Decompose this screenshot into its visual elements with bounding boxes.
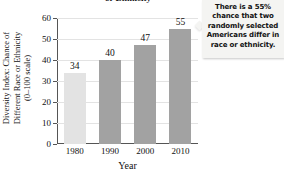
- plot-area: 0102030405060 34404755: [57, 18, 198, 144]
- chart-title: or Ethnicity: [57, 0, 199, 3]
- callout-line-3: randomly selected: [205, 22, 281, 31]
- y-axis-title-line-1: Diversity Index: Chance of: [1, 32, 11, 124]
- y-axis-title-line-2: Different Race or Ethnicity: [12, 8, 23, 148]
- bar-value-label: 55: [176, 17, 186, 27]
- y-axis-tick-label: 50: [42, 35, 51, 44]
- x-axis-tick-label: 1980: [58, 146, 92, 156]
- y-axis-tick: [53, 18, 57, 19]
- chart-figure: or Ethnicity Diversity Index: Chance of …: [0, 0, 284, 179]
- y-axis-tick-label: 60: [42, 14, 51, 23]
- y-axis-tick: [53, 39, 57, 40]
- x-axis-tick-label: 2000: [128, 146, 162, 156]
- bar: 55: [169, 29, 191, 145]
- bar-value-label: 40: [105, 48, 115, 58]
- callout-line-2: chance that two: [205, 12, 281, 21]
- callout-line-4: Americans differ in: [205, 31, 281, 40]
- bar: 40: [99, 60, 121, 144]
- y-axis-tick: [53, 81, 57, 82]
- y-axis-tick-label: 10: [42, 119, 51, 128]
- y-axis-tick: [53, 60, 57, 61]
- y-axis-tick-label: 20: [42, 98, 51, 107]
- annotation-callout: There is a 55% chance that two randomly …: [202, 0, 284, 58]
- y-axis-tick: [53, 144, 57, 145]
- y-axis-tick-label: 30: [42, 77, 51, 86]
- callout-line-1: There is a 55%: [205, 3, 281, 12]
- bar-value-label: 34: [70, 61, 80, 71]
- y-axis-title-line-3: (0–100 scale): [22, 8, 33, 148]
- x-axis-tick-label: 2010: [163, 146, 197, 156]
- y-axis-tick: [53, 102, 57, 103]
- y-axis-title: Diversity Index: Chance of Different Rac…: [0, 8, 34, 148]
- y-axis-tick: [53, 123, 57, 124]
- x-axis-title: Year: [57, 160, 198, 171]
- bar: 34: [64, 73, 86, 144]
- callout-line-5: race or ethnicity.: [205, 41, 281, 50]
- bar-value-label: 47: [140, 33, 150, 43]
- bar: 47: [134, 45, 156, 144]
- y-axis-tick-label: 0: [47, 140, 52, 149]
- x-axis-tick-label: 1990: [93, 146, 127, 156]
- y-axis-tick-label: 40: [42, 56, 51, 65]
